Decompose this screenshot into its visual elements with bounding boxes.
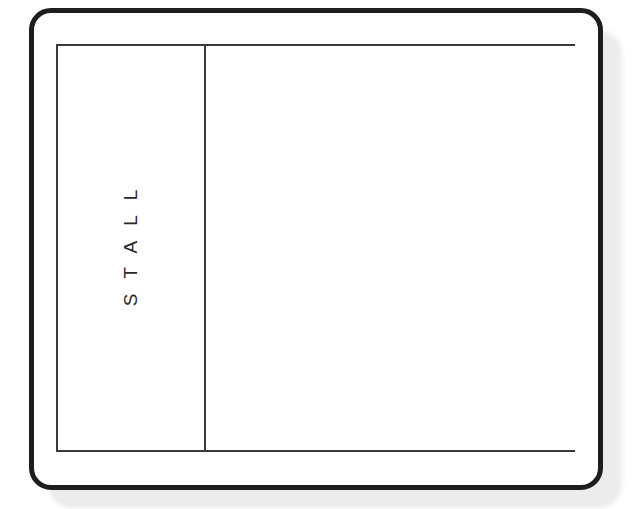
stall-region: STALL [57,45,205,451]
open-area-region [206,46,575,450]
stall-label: STALL [120,175,142,322]
